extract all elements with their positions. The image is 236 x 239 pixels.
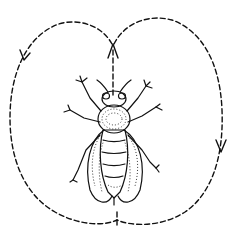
figure-canvas: bee [0,0,236,239]
left-loop [10,22,117,224]
flight-path [10,18,222,225]
arrow-left-loop-icon [20,50,30,60]
figure-svg [0,0,236,239]
